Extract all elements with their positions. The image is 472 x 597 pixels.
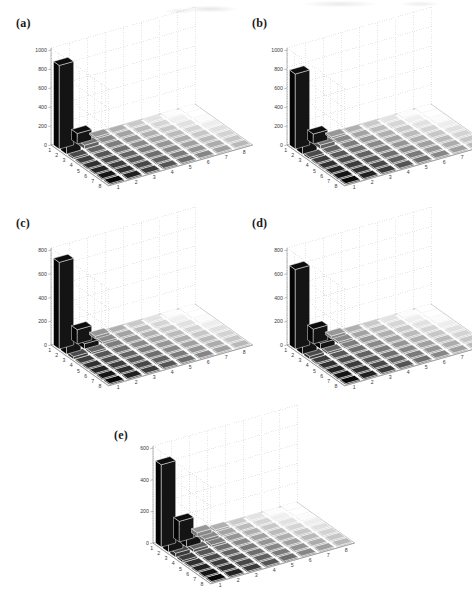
y-axis-tick-label: 600 [274,85,283,91]
x-axis-left-tick-label: 2 [291,152,294,158]
panel-b-plot: 020040060080010001234567812345678 [244,12,472,200]
x-axis-left-tick-label: 7 [193,576,196,582]
x-axis-right-tick-label: 7 [225,354,228,360]
panel-e-plot: 02004006001234567812345678 [110,410,338,597]
x-axis-left-tick-label: 5 [313,168,316,174]
x-axis-left-tick-label: 3 [165,555,168,561]
x-axis-left-tick-label: 8 [99,183,102,189]
x-axis-left-tick-label: 7 [91,378,94,384]
y-axis-tick-label: 0 [280,142,283,148]
x-axis-left-tick-label: 2 [157,550,160,556]
y-axis-tick-label: 800 [38,247,47,253]
y-axis-tick-label: 400 [140,477,149,483]
y-axis-tick-label: 200 [274,318,283,324]
figure-multi-panel-3d-bars: (a) 020040060080010001234567812345678 (b… [0,0,472,597]
x-axis-right-tick-label: 2 [135,179,138,185]
x-axis-right-tick-label: 1 [353,384,356,390]
x-axis-right-tick-label: 4 [171,369,174,375]
x-axis-right-tick-label: 4 [407,369,410,375]
y-axis-tick-label: 200 [140,508,149,514]
x-axis-right-tick-label: 7 [461,154,464,160]
x-axis-left-tick-label: 2 [55,152,58,158]
x-axis-right-tick-label: 1 [117,184,120,190]
x-axis-right-tick-label: 1 [219,582,222,588]
x-axis-right-tick-label: 6 [207,159,210,165]
x-axis-left-tick-label: 3 [63,357,66,363]
x-axis-right-tick-label: 8 [345,547,348,553]
x-axis-left-tick-label: 3 [63,157,66,163]
x-axis-left-tick-label: 8 [335,183,338,189]
x-axis-right-tick-label: 3 [389,374,392,380]
x-axis-right-tick-label: 4 [407,169,410,175]
x-axis-right-tick-label: 1 [117,384,120,390]
x-axis-left-tick-label: 4 [172,560,175,566]
y-axis-tick-label: 800 [274,247,283,253]
y-axis-tick-label: 600 [38,271,47,277]
x-axis-right-tick-label: 7 [225,154,228,160]
x-axis-left-tick-label: 6 [320,373,323,379]
x-axis-left-tick-label: 4 [306,162,309,168]
x-axis-right-tick-label: 5 [291,562,294,568]
panel-d-svg: 02004006008001234567812345678 [244,212,472,400]
y-axis-tick-label: 0 [280,342,283,348]
x-axis-left-tick-label: 8 [335,383,338,389]
x-axis-left-tick-label: 8 [201,581,204,587]
x-axis-left-tick-label: 4 [70,162,73,168]
x-axis-right-tick-label: 7 [461,354,464,360]
x-axis-right-tick-label: 5 [189,164,192,170]
x-axis-right-tick-label: 1 [353,184,356,190]
x-axis-right-tick-label: 3 [153,174,156,180]
x-axis-right-tick-label: 6 [443,159,446,165]
y-axis-tick-label: 800 [274,66,283,72]
x-axis-left-tick-label: 1 [150,545,153,551]
y-axis-tick-label: 0 [44,342,47,348]
y-axis-tick-label: 200 [38,318,47,324]
panel-c-plot: 02004006008001234567812345678 [8,212,236,400]
panel-a: (a) 020040060080010001234567812345678 [8,12,236,200]
panel-d-plot: 02004006008001234567812345678 [244,212,472,400]
x-axis-left-tick-label: 5 [179,566,182,572]
y-axis-tick-label: 1000 [271,47,283,53]
x-axis-right-tick-label: 2 [237,577,240,583]
x-axis-right-tick-label: 5 [189,364,192,370]
y-axis-tick-label: 600 [274,271,283,277]
x-axis-right-tick-label: 3 [255,572,258,578]
panel-a-svg: 020040060080010001234567812345678 [8,12,236,200]
y-axis-tick-label: 800 [38,66,47,72]
x-axis-right-tick-label: 7 [327,552,330,558]
x-axis-right-tick-label: 6 [443,359,446,365]
y-axis-tick-label: 0 [146,540,149,546]
panel-a-plot: 020040060080010001234567812345678 [8,12,236,200]
panel-b-svg: 020040060080010001234567812345678 [244,12,472,200]
x-axis-left-tick-label: 1 [284,347,287,353]
x-axis-left-tick-label: 7 [327,378,330,384]
y-axis-tick-label: 0 [44,142,47,148]
x-axis-left-tick-label: 2 [55,352,58,358]
x-axis-left-tick-label: 1 [48,147,51,153]
y-axis-tick-label: 200 [274,123,283,129]
y-axis-tick-label: 200 [38,123,47,129]
x-axis-left-tick-label: 8 [99,383,102,389]
x-axis-left-tick-label: 6 [186,571,189,577]
panel-e: (e) 02004006001234567812345678 [110,410,338,597]
x-axis-right-tick-label: 6 [309,557,312,563]
x-axis-right-tick-label: 4 [273,567,276,573]
x-axis-right-tick-label: 2 [371,379,374,385]
panel-c: (c) 02004006008001234567812345678 [8,212,236,400]
panel-e-svg: 02004006001234567812345678 [110,410,338,597]
x-axis-right-tick-label: 3 [389,174,392,180]
x-axis-right-tick-label: 5 [425,164,428,170]
y-axis-tick-label: 600 [38,85,47,91]
x-axis-left-tick-label: 5 [77,168,80,174]
x-axis-right-tick-label: 6 [207,359,210,365]
x-axis-left-tick-label: 1 [48,347,51,353]
x-axis-left-tick-label: 4 [70,362,73,368]
y-axis-tick-label: 400 [274,295,283,301]
panel-b: (b) 020040060080010001234567812345678 [244,12,472,200]
x-axis-left-tick-label: 3 [299,157,302,163]
y-axis-tick-label: 400 [38,295,47,301]
x-axis-left-tick-label: 2 [291,352,294,358]
x-axis-left-tick-label: 6 [84,173,87,179]
x-axis-left-tick-label: 3 [299,357,302,363]
panel-c-svg: 02004006008001234567812345678 [8,212,236,400]
